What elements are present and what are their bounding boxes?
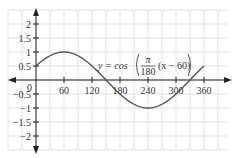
- x-tick-label: 120: [85, 85, 100, 96]
- y-tick-label: −1: [20, 103, 31, 114]
- y-tick-label: −1.5: [13, 117, 31, 128]
- x-tick-label: 360: [197, 85, 212, 96]
- y-tick-label: 1: [26, 47, 31, 58]
- y-tick-label: 0.5: [19, 61, 32, 72]
- x-tick-label: 60: [59, 85, 69, 96]
- y-tick-label: −2: [20, 131, 31, 142]
- svg-text:π: π: [145, 54, 151, 65]
- equation-label: y = cosπ180(x − 60): [97, 54, 191, 77]
- origin-label: 0: [27, 82, 32, 93]
- svg-text:(x − 60): (x − 60): [158, 60, 190, 72]
- y-tick-label: 1.5: [19, 33, 32, 44]
- x-tick-label: 240: [141, 85, 156, 96]
- svg-text:y = cos: y = cos: [97, 60, 128, 71]
- y-tick-label: 2: [26, 19, 31, 30]
- svg-text:180: 180: [141, 66, 156, 77]
- chart: 6012018024030036021.510.5−0.5−1−1.5−2 y …: [0, 0, 234, 158]
